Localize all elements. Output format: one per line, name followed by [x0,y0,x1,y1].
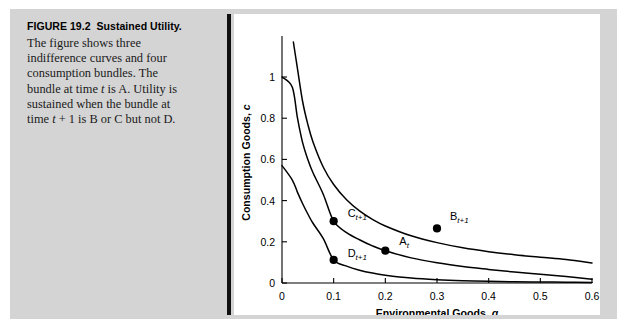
x-axis-tick-labels: 00.10.20.30.40.50.6 [279,290,599,302]
bundle-point-d [330,256,338,264]
italic-t: t [52,112,55,126]
caption-line: sustained when the bundle at [27,97,215,112]
chart-axes [282,36,592,283]
y-axis-tick-labels: 00.20.40.60.81 [260,71,275,289]
figure-caption-block: FIGURE 19.2 Sustained Utility. The figur… [27,20,215,127]
bundle-point-a [381,247,389,255]
x-tick-label: 0.2 [378,290,393,302]
caption-plot-divider [227,14,231,315]
y-tick-label: 0.6 [260,153,275,165]
x-tick-label: 0.6 [585,290,600,302]
caption-line: time t + 1 is B or C but not D. [27,112,215,127]
x-axis-title: Environmental Goods, g [376,307,499,315]
consumption-bundle-points [330,217,442,264]
caption-line: consumption bundles. The [27,66,215,81]
indifference-curve [293,42,592,263]
x-tick-label: 0 [279,290,285,302]
caption-line: The figure shows three [27,36,215,51]
bundle-label-d: Dt+1 [348,247,367,262]
figure-caption-title: FIGURE 19.2 Sustained Utility. [27,20,215,33]
figure-title: Sustained Utility. [97,20,182,32]
caption-line: indifference curves and four [27,51,215,66]
y-tick-label: 0 [269,277,275,289]
y-axis-ticks [282,77,287,283]
x-tick-label: 0.1 [326,290,341,302]
indifference-curve-chart: 00.10.20.30.40.50.6 00.20.40.60.81 Ct+1A… [234,14,600,315]
bundle-point-b [433,224,441,232]
italic-t: t [101,82,104,96]
x-tick-label: 0.5 [533,290,548,302]
y-axis-title: Consumption Goods, c [240,104,252,221]
y-tick-label: 1 [269,71,275,83]
plot-panel: 00.10.20.30.40.50.6 00.20.40.60.81 Ct+1A… [234,14,600,315]
y-tick-label: 0.4 [260,195,275,207]
x-tick-label: 0.3 [430,290,445,302]
figure-root: FIGURE 19.2 Sustained Utility. The figur… [0,0,629,329]
y-tick-label: 0.8 [260,112,275,124]
indifference-curve [282,166,592,283]
y-tick-label: 0.2 [260,236,275,248]
figure-caption-text: The figure shows three indifference curv… [27,36,215,127]
caption-line: bundle at time t is A. Utility is [27,82,215,97]
bundle-label-a: At [399,235,409,250]
bundle-point-c [330,217,338,225]
bundle-label-b: Bt+1 [450,210,469,225]
x-tick-label: 0.4 [481,290,496,302]
figure-number: FIGURE 19.2 [27,20,91,32]
indifference-curves [282,42,592,282]
